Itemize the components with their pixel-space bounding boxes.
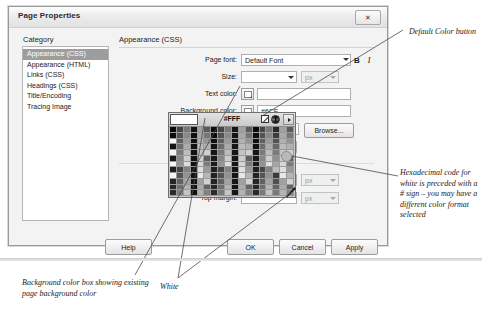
size-unit-select[interactable]: px xyxy=(301,71,339,83)
browse-button[interactable]: Browse... xyxy=(304,123,354,138)
color-swatch[interactable] xyxy=(170,190,177,196)
color-swatch[interactable] xyxy=(225,190,232,196)
size-label: Size: xyxy=(221,73,237,80)
category-item-appearance-css[interactable]: Appearance (CSS) xyxy=(23,49,108,60)
color-swatch[interactable] xyxy=(198,190,205,196)
annotation-hex-note: Hexadecimal code for white is preceded w… xyxy=(400,168,480,221)
page-divider xyxy=(0,258,482,261)
category-item-links-css[interactable]: Links (CSS) xyxy=(23,70,108,81)
page-font-select[interactable]: Default Font xyxy=(241,54,351,66)
pane-title: Appearance (CSS) xyxy=(119,35,182,44)
annotation-white: White xyxy=(160,282,200,293)
text-color-label: Text color: xyxy=(205,90,237,97)
text-color-input[interactable] xyxy=(257,88,351,100)
help-button[interactable]: Help xyxy=(105,239,152,255)
resize-handle[interactable] xyxy=(281,151,292,162)
page-font-label: Page font: xyxy=(205,56,237,63)
color-wheel-icon[interactable] xyxy=(271,115,280,124)
pane-divider xyxy=(119,47,374,48)
italic-button[interactable]: I xyxy=(365,56,373,65)
size-select[interactable] xyxy=(241,71,297,83)
dialog-titlebar[interactable]: Page Properties ✕ xyxy=(9,7,387,28)
color-swatch[interactable] xyxy=(184,190,191,196)
color-swatch[interactable] xyxy=(273,190,280,196)
annotation-default-color-button: Default Color button xyxy=(409,27,479,38)
color-swatch[interactable] xyxy=(253,190,260,196)
bold-button[interactable]: B xyxy=(353,56,361,65)
close-icon[interactable]: ✕ xyxy=(355,10,381,25)
ok-button[interactable]: OK xyxy=(227,239,274,255)
color-picker-popup[interactable]: #FFF xyxy=(168,112,296,198)
color-swatch[interactable] xyxy=(218,190,225,196)
dialog-title: Page Properties xyxy=(18,11,80,20)
size-row: Size: xyxy=(119,71,237,85)
default-color-icon[interactable] xyxy=(261,115,269,123)
color-swatch[interactable] xyxy=(260,190,267,196)
category-header: Category xyxy=(23,35,53,44)
color-picker-header: #FFF xyxy=(169,113,295,127)
category-item-title-encoding[interactable]: Title/Encoding xyxy=(23,91,108,102)
category-list[interactable]: Appearance (CSS) Appearance (HTML) Links… xyxy=(22,46,109,221)
category-item-headings-css[interactable]: Headings (CSS) xyxy=(23,81,108,92)
color-swatch[interactable] xyxy=(177,190,184,196)
color-swatch[interactable] xyxy=(239,190,246,196)
color-swatch[interactable] xyxy=(191,190,198,196)
annotation-background-color-box: Background color box showing existing pa… xyxy=(22,278,152,299)
cancel-button[interactable]: Cancel xyxy=(279,239,326,255)
color-swatch[interactable] xyxy=(211,190,218,196)
text-color-row: Text color: xyxy=(119,88,237,102)
category-item-appearance-html[interactable]: Appearance (HTML) xyxy=(23,60,108,71)
apply-button[interactable]: Apply xyxy=(331,239,378,255)
color-swatch[interactable] xyxy=(266,190,273,196)
category-item-tracing-image[interactable]: Tracing Image xyxy=(23,102,108,113)
left-margin-unit-select[interactable]: px xyxy=(301,174,339,186)
color-swatch[interactable] xyxy=(246,190,253,196)
top-margin-unit-select[interactable]: px xyxy=(301,192,339,204)
text-color-swatch-button[interactable] xyxy=(241,88,254,100)
swatch-arrow-icon xyxy=(248,96,252,98)
color-swatch[interactable] xyxy=(232,190,239,196)
color-swatch-grid[interactable] xyxy=(170,127,294,196)
page-font-row: Page font: xyxy=(119,54,237,68)
color-picker-menu-button[interactable] xyxy=(283,114,294,125)
color-swatch[interactable] xyxy=(204,190,211,196)
eyedropper-cursor-icon xyxy=(285,186,297,200)
